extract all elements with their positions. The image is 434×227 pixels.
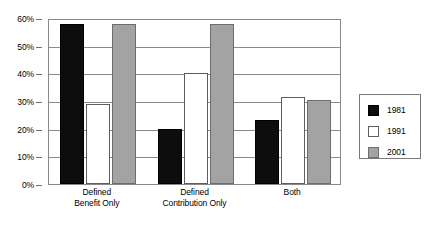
- y-tick-label: 50%: [17, 42, 34, 51]
- white-swatch-icon: [368, 126, 379, 137]
- bar-1991-3: [281, 97, 305, 184]
- gray-swatch-icon: [368, 147, 379, 158]
- x-axis-label-line: Both: [284, 187, 301, 198]
- bar-2001-2: [210, 24, 234, 184]
- legend-item-1981[interactable]: 1981: [368, 105, 406, 116]
- legend-item-1991[interactable]: 1991: [368, 126, 406, 137]
- black-swatch-icon: [368, 105, 379, 116]
- x-axis-label: DefinedBenefit Only: [74, 187, 119, 208]
- bar-1991-1: [86, 104, 110, 184]
- x-axis-label-line: Contribution Only: [163, 198, 227, 209]
- bar-1981-3: [255, 120, 279, 184]
- y-tick-mark: [36, 102, 42, 103]
- y-tick-label: 60%: [17, 15, 34, 24]
- y-tick-mark: [36, 130, 42, 131]
- x-axis-labels: DefinedBenefit OnlyDefinedContribution O…: [48, 187, 341, 225]
- y-tick-label: 40%: [17, 70, 34, 79]
- bar-1991-2: [184, 73, 208, 184]
- bar-2001-3: [307, 100, 331, 184]
- plot-area: [48, 19, 341, 185]
- y-tick-mark: [36, 19, 42, 20]
- x-axis-label-line: Defined: [74, 187, 119, 198]
- y-tick-label: 20%: [17, 125, 34, 134]
- y-tick-label: 10%: [17, 153, 34, 162]
- y-tick-label: 0%: [22, 181, 34, 190]
- y-tick-label: 30%: [17, 98, 34, 107]
- legend-label: 1981: [387, 106, 406, 115]
- y-tick-mark: [36, 74, 42, 75]
- y-tick-mark: [36, 157, 42, 158]
- legend-label: 2001: [387, 148, 406, 157]
- x-axis-label-line: Benefit Only: [74, 198, 119, 209]
- legend-label: 1991: [387, 127, 406, 136]
- bar-chart: 0%10%20%30%40%50%60% DefinedBenefit Only…: [0, 0, 434, 227]
- y-axis: 0%10%20%30%40%50%60%: [0, 0, 48, 227]
- x-axis-label: DefinedContribution Only: [163, 187, 227, 208]
- y-tick-mark: [36, 185, 42, 186]
- bar-1981-1: [60, 24, 84, 184]
- legend-item-2001[interactable]: 2001: [368, 147, 406, 158]
- bars-layer: [49, 20, 340, 184]
- x-axis-label: Both: [284, 187, 301, 198]
- x-axis-label-line: Defined: [163, 187, 227, 198]
- bar-2001-1: [112, 24, 136, 184]
- bar-1981-2: [158, 129, 182, 184]
- y-tick-mark: [36, 47, 42, 48]
- chart-legend: 198119912001: [359, 94, 421, 159]
